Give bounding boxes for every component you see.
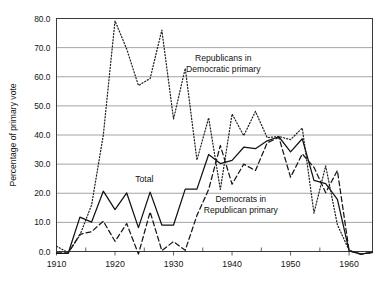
- y-axis-title: Percentage of primary vote: [8, 83, 18, 186]
- annotation-line: Republicans in: [195, 53, 252, 63]
- x-tick-label-1910: 1910: [47, 259, 67, 269]
- axis-titles-group: Percentage of primary vote: [8, 83, 18, 186]
- y-tick-label-10.0: 10.0: [34, 217, 51, 227]
- annotation-total-label: Total: [135, 174, 153, 184]
- chart-background: [0, 0, 386, 281]
- annotation-line: Democrats in: [216, 194, 267, 204]
- primary-vote-line-chart: 0.010.020.030.040.050.060.070.080.0 1910…: [0, 0, 386, 281]
- x-tick-label-1930: 1930: [164, 259, 184, 269]
- x-tick-label-1920: 1920: [105, 259, 125, 269]
- x-tick-label-1940: 1940: [222, 259, 242, 269]
- annotation-line: Democratic primary: [186, 64, 261, 74]
- annotation-line: Republican primary: [204, 205, 279, 215]
- y-tick-label-70.0: 70.0: [34, 43, 51, 53]
- x-tick-label-1950: 1950: [281, 259, 301, 269]
- y-tick-label-20.0: 20.0: [34, 188, 51, 198]
- annotation-line: Total: [135, 174, 153, 184]
- y-tick-labels-group: 0.010.020.030.040.050.060.070.080.0: [34, 14, 51, 257]
- y-tick-label-40.0: 40.0: [34, 130, 51, 140]
- chart-figure: 0.010.020.030.040.050.060.070.080.0 1910…: [0, 0, 386, 281]
- annotation-republicans-label: Republicans inDemocratic primary: [186, 53, 261, 74]
- x-tick-label-1960: 1960: [339, 259, 359, 269]
- y-tick-label-60.0: 60.0: [34, 72, 51, 82]
- y-tick-label-0.0: 0.0: [39, 247, 51, 257]
- y-tick-label-30.0: 30.0: [34, 159, 51, 169]
- y-tick-label-50.0: 50.0: [34, 101, 51, 111]
- y-tick-label-80.0: 80.0: [34, 14, 51, 24]
